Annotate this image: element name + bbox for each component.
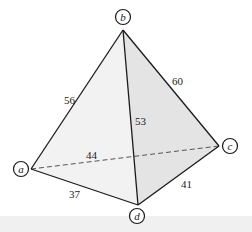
edge-weight-b-d: 53 — [135, 115, 147, 127]
edge-weight-b-c: 60 — [172, 75, 184, 87]
vertex-d: d — [130, 209, 145, 224]
edge-weight-a-c: 44 — [86, 149, 98, 161]
tetrahedron-diagram: 56 60 53 44 37 41 b a c d — [0, 0, 252, 232]
vertex-b: b — [116, 10, 131, 25]
vertex-a: a — [14, 162, 29, 177]
face-abd — [31, 30, 138, 205]
vertex-label-b: b — [120, 11, 126, 23]
edge-weight-a-d: 37 — [69, 188, 81, 200]
edge-weight-a-b: 56 — [64, 94, 76, 106]
vertex-c: c — [223, 139, 238, 154]
vertex-label-a: a — [18, 163, 24, 175]
edge-weight-c-d: 41 — [181, 178, 192, 190]
vertex-label-d: d — [134, 210, 140, 222]
vertex-label-c: c — [228, 140, 233, 152]
